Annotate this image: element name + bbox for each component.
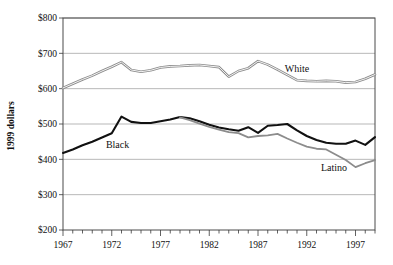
x-tick-label: 1972 [102,240,121,250]
x-tick-label: 1977 [151,240,170,250]
y-tick-label: $700 [38,49,57,59]
x-axis-tick-labels: 1967197219771982198719921997 [54,240,366,250]
series-line-white-outer [63,61,375,88]
y-tick-label: $800 [38,13,57,23]
series-line-white-inner [63,61,375,88]
series-label-white: White [285,63,310,74]
chart-figure: $200$300$400$500$600$700$800 19671972197… [0,0,393,265]
y-tick-label: $400 [38,155,57,165]
series-annotations-group: WhiteBlackLatino [106,63,347,174]
x-tick-label: 1997 [346,240,365,250]
y-axis-tick-labels: $200$300$400$500$600$700$800 [38,13,63,235]
x-tick-label: 1987 [249,240,268,250]
x-tick-label: 1967 [54,240,73,250]
y-tick-label: $300 [38,190,57,200]
series-label-latino: Latino [321,162,347,173]
x-tick-label: 1982 [200,240,219,250]
y-tick-label: $200 [38,225,57,235]
series-lines-group [63,61,375,167]
series-label-black: Black [106,139,129,150]
line-chart: $200$300$400$500$600$700$800 19671972197… [0,0,393,265]
y-tick-label: $600 [38,84,57,94]
y-tick-label: $500 [38,119,57,129]
x-tick-label: 1992 [297,240,316,250]
y-axis-title: 1999 dollars [6,101,16,151]
x-axis-ticks [63,230,375,236]
